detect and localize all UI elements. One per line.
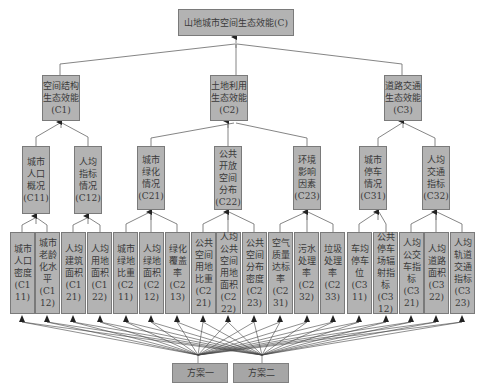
criterion-code: (C1): [43, 104, 79, 116]
subcriterion-node-c22: 公共开放空间分布 (C22): [214, 146, 242, 210]
indicator-code: (C122): [90, 279, 109, 303]
indicator-node-c223: 公共空间分布密度(C223): [242, 232, 267, 314]
subcriterion-code: (C12): [75, 192, 101, 204]
criterion-label: 土地利用生态效能: [211, 80, 247, 104]
indicator-code: (C112): [38, 285, 57, 309]
indicator-code: (C221): [194, 285, 213, 309]
indicator-code: (C222): [219, 291, 238, 315]
indicator-label: 绿化覆盖率: [168, 243, 187, 279]
subcriterion-label: 人均交通指标: [423, 154, 449, 190]
goal-node: 山地城市空间生态效能(C): [178, 9, 294, 36]
subcriterion-label: 环境影响因素: [294, 154, 320, 190]
indicator-node-c323: 人均轨道交通指标(C323): [450, 232, 475, 314]
indicator-label: 城市人口密度: [13, 243, 32, 279]
indicator-label: 人均建筑面积: [64, 243, 83, 279]
indicator-node-c121: 人均建筑面积(C121): [61, 232, 86, 314]
subcriterion-code: (C21): [138, 190, 164, 202]
subcriterion-label: 城市人口概况: [23, 156, 49, 192]
indicator-node-c231: 空气质量达标率(C231): [268, 232, 293, 314]
indicator-code: (C323): [453, 285, 472, 309]
subcriterion-label: 人均指标情况: [75, 156, 101, 192]
criterion-node-c2: 土地利用生态效能 (C2): [210, 75, 248, 121]
indicator-code: (C322): [427, 279, 446, 303]
indicator-code: (C232): [297, 279, 316, 303]
indicator-code: (C212): [142, 279, 161, 303]
subcriterion-label: 城市绿化情况: [138, 154, 164, 190]
indicator-code: (C111): [13, 279, 32, 303]
subcriterion-code: (C11): [23, 192, 49, 204]
indicator-node-c221: 公共空间用地比重(C221): [191, 232, 216, 314]
goal-label: 山地城市空间生态效能(C): [184, 17, 288, 29]
criterion-code: (C2): [211, 104, 247, 116]
subcriterion-node-c31: 城市停车情况 (C31): [359, 146, 387, 210]
indicator-label: 公共空间用地比重: [194, 237, 213, 285]
indicator-code: (C231): [271, 285, 290, 309]
indicator-node-c321: 人均公交车指标(C321): [399, 232, 424, 314]
indicator-node-c112: 城市老龄化水平(C112): [35, 232, 60, 314]
indicator-code: (C233): [323, 279, 342, 303]
indicator-label: 污水处理率: [297, 243, 316, 279]
indicator-label: 城市绿地比重: [116, 243, 135, 279]
criterion-node-c1: 空间结构生态效能 (C1): [42, 75, 80, 121]
indicator-label: 人均公共空间用地面积: [219, 231, 238, 291]
indicator-code: (C321): [402, 285, 421, 309]
indicator-code: (C211): [116, 279, 135, 303]
subcriterion-code: (C23): [294, 190, 320, 202]
indicator-label: 城市老龄化水平: [38, 237, 57, 285]
subcriterion-code: (C31): [360, 190, 386, 202]
indicator-code: (C312): [376, 291, 395, 315]
indicator-label: 车均停车位: [350, 243, 369, 279]
subcriterion-node-c11: 城市人口概况 (C11): [22, 146, 50, 214]
indicator-node-c212: 人均绿地面积(C212): [139, 232, 164, 314]
indicator-label: 公共空间分布密度: [245, 237, 264, 285]
subcriterion-label: 公共开放空间分布: [215, 148, 241, 196]
indicator-node-c312: 公共停车场辐射指标(C312): [373, 232, 398, 314]
criterion-code: (C3): [385, 104, 421, 116]
indicator-code: (C223): [245, 285, 264, 309]
indicator-label: 人均轨道交通指标: [453, 237, 472, 285]
criterion-node-c3: 道路交通生态效能 (C3): [384, 75, 422, 121]
indicator-node-c111: 城市人口密度(C111): [10, 232, 35, 314]
indicator-label: 人均公交车指标: [402, 237, 421, 285]
indicator-node-c213: 绿化覆盖率(C213): [165, 232, 190, 314]
indicator-node-c122: 人均用地面积(C122): [87, 232, 112, 314]
subcriterion-label: 城市停车情况: [360, 154, 386, 190]
indicator-label: 垃圾处理率: [323, 243, 342, 279]
indicator-node-c211: 城市绿地比重(C211): [113, 232, 138, 314]
indicator-label: 人均用地面积: [90, 243, 109, 279]
indicator-label: 空气质量达标率: [271, 237, 290, 285]
plan-label: 方案一: [187, 367, 214, 379]
indicator-node-c233: 垃圾处理率(C233): [320, 232, 345, 314]
indicator-node-c322: 人均道路面积(C322): [424, 232, 449, 314]
subcriterion-code: (C32): [423, 190, 449, 202]
plan-node-2: 方案二: [233, 363, 289, 383]
criterion-label: 空间结构生态效能: [43, 80, 79, 104]
plan-node-1: 方案一: [172, 363, 228, 383]
subcriterion-node-c23: 环境影响因素 (C23): [293, 146, 321, 210]
indicator-node-c222: 人均公共空间用地面积(C222): [216, 232, 241, 314]
indicator-node-c232: 污水处理率(C232): [294, 232, 319, 314]
criterion-label: 道路交通生态效能: [385, 80, 421, 104]
indicator-code: (C213): [168, 279, 187, 303]
plan-label: 方案二: [248, 367, 275, 379]
subcriterion-code: (C22): [215, 196, 241, 208]
indicator-code: (C311): [350, 279, 369, 303]
indicator-label: 公共停车场辐射指标: [376, 231, 395, 291]
indicator-node-c311: 车均停车位(C311): [347, 232, 372, 314]
indicator-label: 人均绿地面积: [142, 243, 161, 279]
subcriterion-node-c12: 人均指标情况 (C12): [74, 146, 102, 214]
subcriterion-node-c32: 人均交通指标 (C32): [422, 146, 450, 210]
indicator-code: (C121): [64, 279, 83, 303]
subcriterion-node-c21: 城市绿化情况 (C21): [137, 146, 165, 210]
indicator-label: 人均道路面积: [427, 243, 446, 279]
